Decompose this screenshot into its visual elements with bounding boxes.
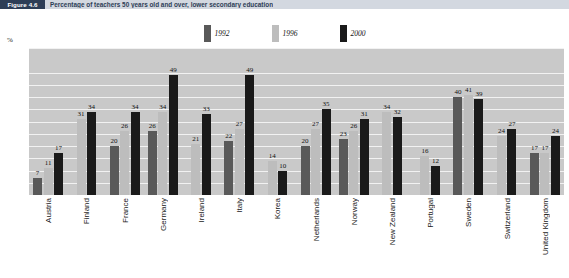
y-axis-unit-label: % (7, 36, 13, 44)
legend-swatch-1992 (204, 25, 211, 42)
bar-value-label: 10 (279, 162, 286, 171)
bar-group: 2427 (488, 48, 526, 195)
bar: 34 (131, 112, 140, 195)
bar-value-label: 26 (121, 122, 128, 131)
bar-value-label: 34 (88, 103, 95, 112)
bar: 34 (158, 112, 167, 195)
bar-value-label: 24 (552, 127, 559, 136)
legend-label-1996: 1996 (283, 29, 298, 38)
bar-value-label: 11 (45, 159, 52, 168)
bar-value-label: 33 (203, 105, 210, 114)
bar: 17 (530, 153, 539, 195)
bar: 31 (77, 119, 86, 195)
bar-value-label: 7 (36, 169, 40, 178)
bar: 34 (382, 112, 391, 195)
legend-swatch-1996 (272, 25, 279, 42)
bar-group: 1612 (411, 48, 449, 195)
bar: 39 (474, 99, 483, 195)
bar: 49 (169, 75, 178, 195)
bar-value-label: 32 (394, 108, 401, 117)
bar-group: 71117 (29, 48, 67, 195)
bar-group: 202634 (105, 48, 143, 195)
legend-swatch-2000 (340, 25, 347, 42)
bar: 20 (110, 146, 119, 195)
bar-group: 1410 (258, 48, 296, 195)
bar-value-label: 12 (432, 157, 439, 166)
x-axis-label-switzerland: Switzerland (503, 198, 512, 239)
bar: 26 (148, 131, 157, 195)
bar: 21 (191, 144, 200, 195)
bar: 23 (339, 139, 348, 195)
bar: 24 (551, 136, 560, 195)
x-axis-label-italy: Italy (235, 198, 244, 213)
bar-value-label: 35 (323, 100, 330, 109)
bar-value-label: 27 (508, 120, 515, 129)
bar-group: 2133 (182, 48, 220, 195)
figure-title-bar: Figure 4.6 Percentage of teachers 50 yea… (0, 0, 569, 9)
x-axis-label-norway: Norway (350, 198, 359, 225)
bar-value-label: 34 (383, 103, 390, 112)
bar: 27 (311, 129, 320, 195)
bar-group: 404139 (449, 48, 487, 195)
bar: 24 (497, 136, 506, 195)
bar-group: 202735 (297, 48, 335, 195)
bar: 26 (349, 131, 358, 195)
bar-groups-layer: 7111731342026342634492133222749141020273… (29, 48, 564, 195)
bar-value-label: 31 (78, 110, 85, 119)
x-axis-label-ireland: Ireland (197, 198, 206, 222)
bar: 31 (360, 119, 369, 195)
x-axis-label-korea: Korea (273, 198, 282, 219)
bar-value-label: 23 (340, 130, 347, 139)
bar-group: 3432 (373, 48, 411, 195)
bar: 10 (278, 171, 287, 196)
bar-value-label: 21 (192, 135, 199, 144)
bar-value-label: 27 (236, 120, 243, 129)
bar-value-label: 40 (454, 88, 461, 97)
bar: 41 (464, 95, 473, 195)
bar: 11 (44, 168, 53, 195)
x-axis-label-france: France (121, 198, 130, 223)
bar-value-label: 49 (170, 66, 177, 75)
bar-value-label: 20 (111, 137, 118, 146)
bar-value-label: 34 (159, 103, 166, 112)
bar-value-label: 31 (361, 110, 368, 119)
bar-value-label: 17 (541, 144, 548, 153)
bar: 22 (224, 141, 233, 195)
x-axis-label-sweden: Sweden (464, 198, 473, 227)
bar: 49 (245, 75, 254, 195)
legend-label-2000: 2000 (351, 29, 366, 38)
x-axis-label-finland: Finland (82, 198, 91, 224)
figure-number-tag: Figure 4.6 (0, 0, 45, 9)
plot-area-wrapper: 7111731342026342634492133222749141020273… (29, 48, 564, 195)
bar-value-label: 27 (312, 120, 319, 129)
bar-group: 263449 (144, 48, 182, 195)
legend-item-1996: 1996 (272, 25, 298, 42)
bar-group: 222749 (220, 48, 258, 195)
bar-value-label: 14 (269, 152, 276, 161)
bar-group: 232631 (335, 48, 373, 195)
bar-value-label: 22 (225, 132, 232, 141)
bar: 16 (420, 156, 429, 195)
bar-value-label: 26 (350, 122, 357, 131)
x-axis-label-new-zealand: New Zealand (388, 198, 397, 245)
chart-title: Percentage of teachers 50 years old and … (45, 1, 273, 8)
x-axis-label-austria: Austria (44, 198, 53, 223)
bar: 17 (540, 153, 549, 195)
bar: 26 (120, 131, 129, 195)
bar-value-label: 39 (475, 90, 482, 99)
bar-value-label: 41 (465, 86, 472, 95)
bar: 14 (268, 161, 277, 195)
x-axis-label-portugal: Portugal (426, 198, 435, 228)
bar: 20 (301, 146, 310, 195)
bar-value-label: 49 (246, 66, 253, 75)
x-axis-category-labels: AustriaFinlandFranceGermanyIrelandItalyK… (29, 198, 564, 278)
x-axis-label-germany: Germany (159, 198, 168, 231)
bar-value-label: 17 (55, 144, 62, 153)
bar: 17 (54, 153, 63, 195)
bar-value-label: 24 (498, 127, 505, 136)
bar-value-label: 26 (149, 122, 156, 131)
bar-value-label: 17 (531, 144, 538, 153)
bar-group: 171724 (526, 48, 564, 195)
bar-value-label: 34 (132, 103, 139, 112)
x-axis-label-united-kingdom: United Kingdom (541, 198, 550, 255)
